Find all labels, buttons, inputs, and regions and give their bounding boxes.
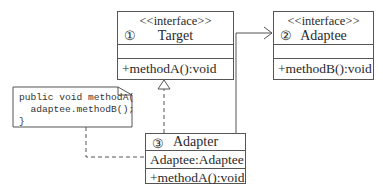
class-number: ③ <box>152 136 164 152</box>
class-adapter[interactable]: ③Adapter Adaptee:Adaptee +methodA():void <box>145 133 246 184</box>
code-note: public void methodA( adaptee.methodB(); … <box>13 87 132 127</box>
class-name: Adaptee <box>300 28 347 43</box>
note-line-1: public void methodA( <box>19 92 134 103</box>
association-line <box>236 33 272 133</box>
class-header: <<interface>> ②Adaptee <box>274 12 373 45</box>
method-label: +methodA():void <box>118 59 233 79</box>
class-header: <<interface>> ①Target <box>118 12 233 45</box>
attribute-label: Adaptee:Adaptee <box>146 151 245 169</box>
hollow-triangle-arrow-icon <box>158 80 170 89</box>
class-name: Adapter <box>173 134 218 149</box>
class-header: ③Adapter <box>146 134 245 151</box>
class-number: ① <box>124 28 136 44</box>
note-anchor-line <box>86 127 145 157</box>
note-line-2: adaptee.methodB(); <box>19 104 134 115</box>
method-label: +methodB():void <box>274 59 373 79</box>
class-name: Target <box>158 28 193 43</box>
note-line-3: } <box>19 116 25 127</box>
stereotype-label: <<interface>> <box>274 12 373 28</box>
method-label: +methodA():void <box>146 169 245 184</box>
attributes-section <box>274 45 373 59</box>
attributes-section <box>118 45 233 59</box>
class-adaptee[interactable]: <<interface>> ②Adaptee +methodB():void <box>273 11 374 80</box>
stereotype-label: <<interface>> <box>118 12 233 28</box>
class-number: ② <box>280 28 292 44</box>
class-target[interactable]: <<interface>> ①Target +methodA():void <box>117 11 234 80</box>
